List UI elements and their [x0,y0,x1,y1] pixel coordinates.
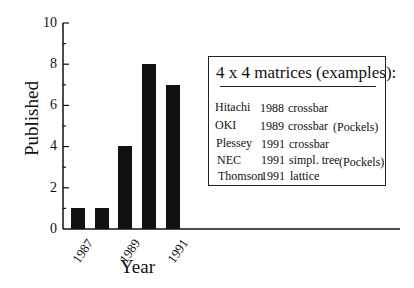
annotation-box: 4 x 4 matrices (examples): Hitachi 1988 … [208,56,386,186]
row-type: crossbar [288,101,328,116]
bar-1987 [71,208,85,229]
row-year: 1991 [261,153,285,168]
row-year: 1991 [261,169,285,184]
y-tick-label: 4 [33,139,57,153]
x-axis-label: Year [120,256,155,278]
y-tick-label: 0 [33,222,57,236]
bar-1988 [95,208,109,229]
row-type: lattice [290,169,319,184]
y-tick-label: 8 [33,57,57,71]
bar-1990 [142,64,156,229]
bar-1991 [166,85,180,229]
row-year: 1989 [260,119,284,134]
y-tick-label: 10 [33,16,57,30]
y-tick-label: 6 [33,98,57,112]
y-tick-label: 2 [33,181,57,195]
row-company: Thomson [218,169,263,184]
row-note: (Pockels) [333,120,378,135]
row-type: simpl. tree [289,153,340,168]
row-year: 1991 [261,137,285,152]
bar-1989 [118,146,132,229]
annotation-divider [220,86,376,87]
row-type: crossbar [289,137,329,152]
row-company: Hitachi [215,100,250,115]
row-year: 1988 [260,101,284,116]
row-type: crossbar [288,119,328,134]
row-company: NEC [217,153,241,168]
row-note: (Pockels) [339,155,384,170]
row-company: Plessey [216,136,252,151]
row-company: OKI [215,118,236,133]
annotation-title: 4 x 4 matrices (examples): [216,63,396,83]
